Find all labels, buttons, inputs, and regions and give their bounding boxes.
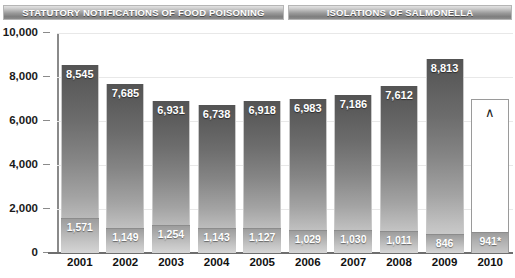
- bar-salmonella[interactable]: 1,149: [106, 228, 144, 253]
- x-axis-label-2005: 2005: [243, 256, 281, 268]
- y-axis-tick-label: 6,000: [9, 114, 38, 126]
- bar-group-2008[interactable]: 7,6121,011: [380, 33, 418, 253]
- y-axis-tick: [43, 208, 50, 209]
- y-axis-tick-label: 4,000: [9, 158, 38, 170]
- bar-value-salmonella: 846: [436, 237, 454, 249]
- chart-root: STATUTORY NOTIFICATIONS OF FOOD POISONIN…: [0, 0, 515, 278]
- bar-group-2009[interactable]: 8,813846: [426, 33, 464, 253]
- bar-salmonella[interactable]: 1,571: [61, 218, 99, 253]
- bar-value-salmonella: 1,030: [340, 233, 366, 245]
- legend-salmonella-label: ISOLATIONS OF SALMONELLA: [327, 7, 474, 18]
- bar-value-salmonella: 1,149: [112, 231, 138, 243]
- x-axis-label-2004: 2004: [198, 256, 236, 268]
- bar-value-salmonella: 1,011: [386, 234, 412, 246]
- x-axis-label-2001: 2001: [61, 256, 99, 268]
- y-axis-tick: [43, 120, 50, 121]
- bar-value-food-poisoning: 7,685: [107, 87, 143, 99]
- bar-value-salmonella: 1,571: [67, 221, 93, 233]
- legend-salmonella: ISOLATIONS OF SALMONELLA: [288, 5, 512, 20]
- bar-salmonella[interactable]: 1,254: [152, 225, 190, 253]
- bar-value-food-poisoning: 7,612: [381, 89, 417, 101]
- bar-food-poisoning[interactable]: 7,612: [380, 86, 418, 253]
- bar-value-salmonella: 1,143: [203, 231, 229, 243]
- bar-salmonella[interactable]: 1,143: [198, 228, 236, 253]
- bar-salmonella[interactable]: 1,011: [380, 231, 418, 253]
- bar-value-salmonella: 1,029: [295, 233, 321, 245]
- bar-group-2001[interactable]: 8,5451,571: [61, 33, 99, 253]
- bar-value-food-poisoning: 6,918: [244, 104, 280, 116]
- bar-group-2006[interactable]: 6,9831,029: [289, 33, 327, 253]
- bar-group-2003[interactable]: 6,9311,254: [152, 33, 190, 253]
- bar-salmonella[interactable]: 846: [426, 234, 464, 253]
- bar-food-poisoning[interactable]: 8,813: [426, 59, 464, 253]
- bar-group-2007[interactable]: 7,1861,030: [334, 33, 372, 253]
- y-axis-tick-label: 2,000: [9, 202, 38, 214]
- caret-icon: ∧: [472, 106, 508, 119]
- y-axis-tick-label: 0: [32, 246, 38, 258]
- bar-salmonella[interactable]: 1,030: [334, 230, 372, 253]
- bar-value-food-poisoning: 8,813: [427, 62, 463, 74]
- x-axis-label-2002: 2002: [106, 256, 144, 268]
- x-axis-label-2003: 2003: [152, 256, 190, 268]
- x-axis-label-2010: 2010: [471, 256, 509, 268]
- bar-salmonella[interactable]: 1,127: [243, 228, 281, 253]
- bar-value-food-poisoning: 8,545: [62, 68, 98, 80]
- bar-value-food-poisoning: 6,983: [290, 102, 326, 114]
- y-axis-tick: [43, 164, 50, 165]
- bar-value-salmonella: 1,254: [158, 228, 184, 240]
- bar-food-poisoning[interactable]: 7,186: [334, 95, 372, 253]
- x-axis-label-2006: 2006: [289, 256, 327, 268]
- bar-value-food-poisoning: 7,186: [335, 98, 371, 110]
- bar-food-poisoning-unavailable[interactable]: ∧: [471, 99, 509, 253]
- y-axis-tick-label: 8,000: [9, 70, 38, 82]
- bar-group-2005[interactable]: 6,9181,127: [243, 33, 281, 253]
- y-axis-labels: 02,0004,0006,0008,00010,000: [0, 0, 50, 278]
- bar-value-salmonella: 941*: [479, 235, 501, 247]
- bar-group-2004[interactable]: 6,7381,143: [198, 33, 236, 253]
- y-axis-tick: [43, 76, 50, 77]
- bar-value-food-poisoning: 6,931: [153, 104, 189, 116]
- x-axis-label-2008: 2008: [380, 256, 418, 268]
- bar-group-2010[interactable]: ∧941*: [471, 33, 509, 253]
- y-axis-tick: [43, 32, 50, 33]
- bar-group-2002[interactable]: 7,6851,149: [106, 33, 144, 253]
- bar-value-salmonella: 1,127: [249, 231, 275, 243]
- bar-salmonella[interactable]: 1,029: [289, 230, 327, 253]
- bar-salmonella[interactable]: 941*: [471, 232, 509, 253]
- x-axis-label-2007: 2007: [334, 256, 372, 268]
- x-axis-label-2009: 2009: [426, 256, 464, 268]
- plot-area: 8,5451,5717,6851,1496,9311,2546,7381,143…: [57, 30, 513, 253]
- bar-value-food-poisoning: 6,738: [199, 108, 235, 120]
- y-axis-tick-label: 10,000: [3, 26, 38, 38]
- legend-food-poisoning-label: STATUTORY NOTIFICATIONS OF FOOD POISONIN…: [22, 7, 264, 18]
